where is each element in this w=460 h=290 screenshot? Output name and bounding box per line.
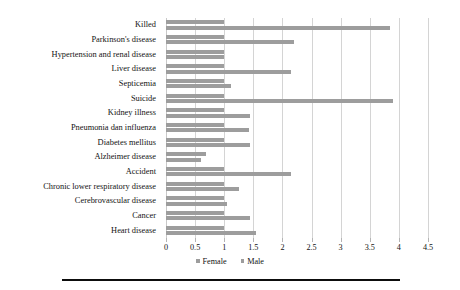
- category-label-12: Cerebrovascular disease: [0, 196, 156, 205]
- tick-label-3: 1.5: [238, 243, 268, 253]
- tick-mark-3: [253, 238, 254, 242]
- tick-mark-1: [195, 238, 196, 242]
- grouped-bar-chart: KilledParkinson's diseaseHypertension an…: [0, 0, 460, 290]
- category-axis-labels: KilledParkinson's diseaseHypertension an…: [0, 18, 160, 238]
- bar-male-0: [166, 26, 390, 30]
- gridline-1-5: [253, 18, 254, 238]
- gridline-3: [341, 18, 342, 238]
- legend-swatch-icon-male: [241, 259, 245, 263]
- bar-male-8: [166, 143, 250, 147]
- tick-mark-5: [312, 238, 313, 242]
- category-label-8: Diabetes mellitus: [0, 138, 156, 147]
- bar-male-6: [166, 114, 250, 118]
- category-label-9: Alzheimer disease: [0, 152, 156, 161]
- chart-legend: FemaleMale: [0, 257, 460, 267]
- bar-female-12: [166, 196, 224, 200]
- tick-mark-6: [341, 238, 342, 242]
- legend-item-male[interactable]: Male: [241, 257, 264, 267]
- category-label-0: Killed: [0, 20, 156, 29]
- category-label-11: Chronic lower respiratory disease: [0, 182, 156, 191]
- legend-label-male: Male: [247, 257, 264, 266]
- plot-area: [166, 18, 428, 238]
- bar-female-1: [166, 35, 224, 39]
- tick-mark-8: [399, 238, 400, 242]
- category-label-1: Parkinson's disease: [0, 35, 156, 44]
- bar-male-14: [166, 231, 256, 235]
- bar-male-12: [166, 202, 227, 206]
- category-label-2: Hypertension and renal disease: [0, 50, 156, 59]
- gridline-4-5: [428, 18, 429, 238]
- bar-male-11: [166, 187, 239, 191]
- bar-female-7: [166, 123, 224, 127]
- category-label-13: Cancer: [0, 211, 156, 220]
- bar-male-10: [166, 172, 291, 176]
- bar-male-2: [166, 55, 224, 59]
- category-label-7: Pneumonia dan influenza: [0, 123, 156, 132]
- tick-mark-4: [282, 238, 283, 242]
- gridline-2-5: [312, 18, 313, 238]
- legend-label-female: Female: [203, 257, 227, 266]
- bar-male-1: [166, 40, 294, 44]
- tick-label-7: 3.5: [355, 243, 385, 253]
- bar-female-10: [166, 167, 224, 171]
- bottom-rule: [62, 279, 400, 281]
- tick-label-0: 0: [151, 243, 181, 253]
- bar-female-6: [166, 108, 224, 112]
- tick-label-1: 0.5: [180, 243, 210, 253]
- bar-female-5: [166, 94, 224, 98]
- legend-item-female[interactable]: Female: [196, 257, 227, 267]
- category-label-4: Septicemia: [0, 79, 156, 88]
- tick-label-4: 2: [267, 243, 297, 253]
- category-label-10: Accident: [0, 167, 156, 176]
- bar-male-4: [166, 84, 231, 88]
- bar-male-9: [166, 158, 201, 162]
- category-label-14: Heart disease: [0, 226, 156, 235]
- bar-female-2: [166, 50, 224, 54]
- category-label-3: Liver disease: [0, 64, 156, 73]
- bar-female-3: [166, 64, 224, 68]
- bar-female-9: [166, 152, 206, 156]
- bar-female-11: [166, 182, 224, 186]
- tick-label-2: 1: [209, 243, 239, 253]
- legend-swatch-icon-female: [196, 259, 200, 263]
- bar-female-8: [166, 138, 224, 142]
- bar-male-13: [166, 216, 250, 220]
- bar-male-7: [166, 128, 249, 132]
- bar-male-3: [166, 70, 291, 74]
- tick-label-8: 4: [384, 243, 414, 253]
- gridline-3-5: [370, 18, 371, 238]
- category-label-6: Kidney illness: [0, 108, 156, 117]
- gridline-2: [282, 18, 283, 238]
- bar-female-0: [166, 20, 224, 24]
- plot-wrapper: KilledParkinson's diseaseHypertension an…: [0, 0, 460, 248]
- bar-female-14: [166, 226, 224, 230]
- bar-female-4: [166, 79, 224, 83]
- tick-label-9: 4.5: [413, 243, 443, 253]
- tick-label-6: 3: [326, 243, 356, 253]
- bar-male-5: [166, 99, 393, 103]
- tick-mark-0: [166, 238, 167, 242]
- gridline-4: [399, 18, 400, 238]
- tick-label-5: 2.5: [297, 243, 327, 253]
- tick-mark-2: [224, 238, 225, 242]
- bar-female-13: [166, 211, 224, 215]
- category-label-5: Suicide: [0, 94, 156, 103]
- tick-mark-7: [370, 238, 371, 242]
- tick-mark-9: [428, 238, 429, 242]
